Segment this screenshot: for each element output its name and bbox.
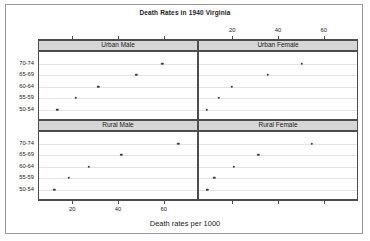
panel-plot-box	[38, 51, 198, 120]
panel-rural-female: Rural Female	[198, 120, 358, 200]
gridline	[39, 167, 197, 168]
gridline	[199, 98, 357, 99]
gridline	[199, 178, 357, 179]
bottom-axis-tick	[72, 201, 73, 204]
bottom-axis-tick	[164, 201, 165, 204]
top-axis-tick	[118, 36, 119, 39]
panel-strip: Rural Female	[198, 120, 358, 131]
y-axis-tick-label: 70-74	[8, 60, 34, 66]
panel-urban-female: Urban Female	[198, 40, 358, 120]
panel-urban-male: Urban Male	[38, 40, 198, 120]
bottom-axis-tick	[278, 201, 279, 204]
panel-rural-male: Rural Male	[38, 120, 198, 200]
gridline	[199, 190, 357, 191]
top-axis-tick	[72, 36, 73, 39]
y-axis-tick-label: 70-74	[8, 140, 34, 146]
gridline	[199, 144, 357, 145]
gridline	[199, 167, 357, 168]
top-axis-tick-label: 20	[229, 27, 235, 33]
top-axis-tick-label: 60	[320, 27, 326, 33]
gridline	[39, 75, 197, 76]
bottom-axis-tick	[324, 201, 325, 204]
gridline	[199, 87, 357, 88]
bottom-axis-tick-label: 40	[115, 206, 121, 212]
top-axis-line	[38, 39, 198, 40]
gridline	[199, 64, 357, 65]
bottom-axis-tick	[118, 201, 119, 204]
y-axis-tick-label: 65-69	[8, 71, 34, 77]
chart-title: Death Rates in 1940 Virginia	[0, 9, 370, 16]
top-axis-tick	[278, 36, 279, 39]
panel-strip: Urban Female	[198, 40, 358, 51]
top-axis-tick	[324, 36, 325, 39]
gridline	[39, 155, 197, 156]
y-axis-tick-label: 65-69	[8, 151, 34, 157]
y-axis-tick-label: 55-59	[8, 174, 34, 180]
trellis-plot-area: Urban MaleUrban FemaleRural MaleRural Fe…	[38, 40, 358, 200]
panel-strip-label: Rural Male	[102, 122, 133, 129]
gridline	[39, 178, 197, 179]
panel-strip-label: Urban Male	[101, 42, 135, 49]
gridline	[39, 64, 197, 65]
gridline	[199, 155, 357, 156]
top-axis-tick	[232, 36, 233, 39]
gridline	[39, 87, 197, 88]
gridline	[39, 144, 197, 145]
panel-strip: Rural Male	[38, 120, 198, 131]
top-axis-tick-label: 40	[275, 27, 281, 33]
bottom-axis-tick-label: 60	[160, 206, 166, 212]
gridline	[39, 98, 197, 99]
top-axis-tick	[164, 36, 165, 39]
panel-strip-label: Urban Female	[257, 42, 298, 49]
y-axis-tick-label: 60-64	[8, 163, 34, 169]
panel-plot-box	[198, 131, 358, 200]
y-axis-tick-label: 50-54	[8, 106, 34, 112]
gridline	[39, 190, 197, 191]
panel-plot-box	[198, 51, 358, 120]
panel-strip: Urban Male	[38, 40, 198, 51]
top-axis-line	[198, 39, 358, 40]
panel-plot-box	[38, 131, 198, 200]
y-axis-tick-label: 50-54	[8, 186, 34, 192]
gridline	[199, 75, 357, 76]
panel-strip-label: Rural Female	[258, 122, 297, 129]
gridline	[199, 110, 357, 111]
bottom-axis-tick	[232, 201, 233, 204]
x-axis-label: Death rates per 1000	[0, 219, 370, 228]
gridline	[39, 110, 197, 111]
y-axis-tick-label: 55-59	[8, 94, 34, 100]
bottom-axis-tick-label: 20	[69, 206, 75, 212]
y-axis-tick-label: 60-64	[8, 83, 34, 89]
chart-figure: Death Rates in 1940 Virginia Urban MaleU…	[0, 0, 370, 241]
